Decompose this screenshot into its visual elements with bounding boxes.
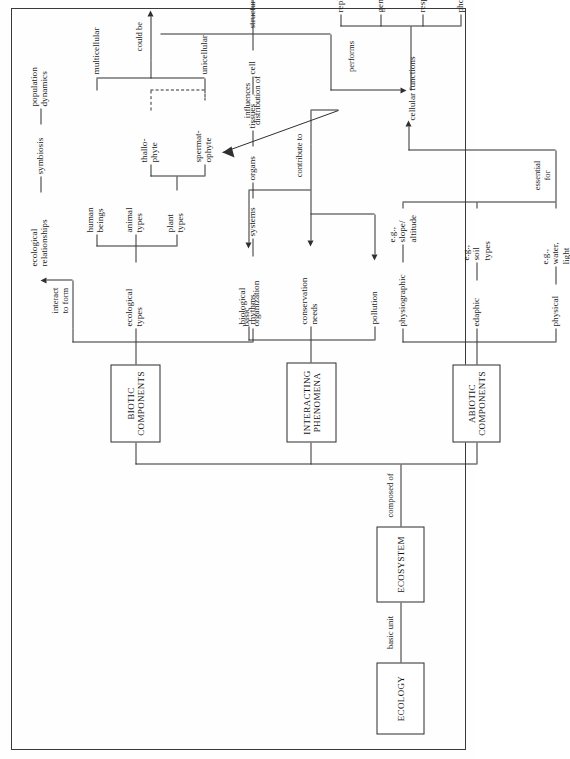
essential-for-line [555, 151, 556, 203]
abiotic-stub-physiographic [402, 329, 403, 343]
chain-cell: cell [246, 47, 256, 75]
arrow-into-conservation-needs [307, 241, 313, 247]
box-ecosystem[interactable]: ECOSYSTEM [376, 527, 424, 603]
cellularity-out [150, 61, 151, 79]
functions-stub-genetic [380, 15, 381, 27]
plant-subtype-bracket [150, 176, 204, 177]
interacting-stub-biological [248, 327, 249, 341]
ecotypes-stub-animal [135, 235, 136, 247]
could-be-line [150, 17, 151, 61]
ecotypes-animal-types: animal types [123, 181, 144, 233]
abiotic-link-physiographic-eg [402, 245, 403, 263]
ecotypes-plant-types: plant types [164, 185, 185, 233]
subtypes-dashed-link-a [150, 91, 151, 111]
cellularity-stub-multi [96, 79, 97, 91]
link-ecosystem-trunk [400, 465, 401, 527]
trunk-to-abiotic [476, 443, 477, 465]
abiotic-collector-a [402, 203, 403, 209]
trunk-down-to-abiotic [400, 464, 476, 465]
essential-for-to-functions [408, 127, 409, 151]
interacting-stub-pollution [374, 327, 375, 341]
abiotic-examples-collector [402, 202, 555, 203]
plant-to-subtypes [176, 177, 177, 191]
relationship-symbiosis: symbiosis [34, 119, 44, 175]
label-interact-to-form: interact to form [50, 277, 69, 325]
arrow-essential-for [405, 121, 411, 127]
plant-subtype-thallophyte: thallo- phyte [138, 107, 159, 163]
link-ecology-ecosystem [400, 603, 401, 663]
abiotic-example-edaphic: e.g., soil types [460, 207, 491, 261]
interact-line [72, 281, 73, 329]
trunk-to-interacting [310, 443, 311, 465]
abiotic-link-edaphic-eg [476, 263, 477, 281]
abiotic-bracket [402, 342, 555, 343]
link-abiotic-out [476, 343, 477, 365]
chain-tissues: tissues [246, 89, 256, 129]
biotic-stub-basic-organization [252, 329, 253, 343]
relationship-population-dynamics: population dynamics [28, 29, 49, 107]
abiotic-example-physical: e.g., water, light [539, 209, 570, 265]
chain-organs: organs [246, 141, 256, 181]
ecotypes-human-beings: human beings [84, 177, 105, 233]
box-ecology[interactable]: ECOLOGY [376, 663, 424, 735]
label-performs: performs [346, 29, 356, 85]
interacting-stub-conservation [310, 327, 311, 341]
cell-function-genetic: genetic [374, 0, 384, 13]
essential-for-riser [408, 150, 555, 151]
trunk-to-biotic [135, 443, 136, 465]
influences-diagonal [130, 41, 345, 161]
functions-stub-replication [340, 15, 341, 27]
cellularity-stub-uni [204, 79, 205, 91]
arrow-into-biological-rhythms [245, 243, 251, 249]
structure-stub [252, 0, 253, 35]
interacting-branch-conservation-needs: conservation needs [298, 251, 319, 325]
biotic-branch-basic-organization: basic organization [240, 253, 261, 327]
biotic-stub-relationships [72, 329, 73, 343]
cell-function-replication: replication [334, 0, 344, 13]
performs-drop [330, 90, 400, 91]
label-could-be: could be [134, 11, 144, 63]
plant-stub-spermatophyte [204, 165, 205, 177]
arrow-could-be [147, 11, 153, 17]
functions-stub-photosynthesis [460, 15, 461, 27]
cell-split-vertical [160, 34, 330, 35]
chain-organs-tissues [252, 131, 253, 147]
plant-stub-thallophyte [150, 165, 151, 177]
box-abiotic-components[interactable]: ABIOTIC COMPONENTS [452, 365, 500, 443]
cellularity-unicellular: unicellular [198, 11, 208, 75]
symbiosis-to-population [40, 109, 41, 125]
arrow-interact-to-form [40, 278, 46, 284]
performs-line [330, 35, 331, 91]
abiotic-collector-c [555, 203, 556, 209]
concept-map-canvas: ECOLOGY basic unit ECOSYSTEM composed of… [10, 9, 465, 751]
functions-stub-respiration [422, 15, 423, 27]
trunk-vertical [135, 464, 400, 465]
abiotic-stub-edaphic [476, 329, 477, 343]
abiotic-collector-b [476, 203, 477, 209]
ecotypes-stub-human [96, 235, 97, 247]
link-biotic-out [135, 343, 136, 365]
cellular-functions-bracket [340, 26, 460, 27]
relationships-to-symbiosis [40, 177, 41, 193]
box-biotic-components[interactable]: BIOTIC COMPONENTS [110, 365, 160, 443]
cell-function-respiration: respiration [416, 0, 426, 13]
abiotic-stub-physical [555, 329, 556, 343]
ecotypes-to-groups [135, 247, 136, 263]
box-interacting-phenomena[interactable]: INTERACTING PHENOMENA [286, 363, 336, 443]
cell-function-photosynthesis: photosynthesis [454, 0, 464, 13]
abiotic-branch-physiographic: physiographic [396, 253, 406, 327]
abiotic-branch-edaphic: edaphic [470, 269, 480, 327]
chain-systems-organs [252, 183, 253, 199]
abiotic-example-physiographic: e.g., slope/ altitude [386, 173, 417, 243]
ecological-relationships-label: ecological relationships [28, 189, 49, 267]
biotic-branch-ecological-types: ecological types [123, 259, 144, 327]
arrow-into-pollution [371, 255, 377, 261]
chain-basicorg-systems [252, 239, 253, 257]
label-structure: structure [246, 0, 256, 29]
link-interacting-out [310, 341, 311, 363]
arrow-performs [400, 88, 406, 94]
chain-tissues-cell [252, 77, 253, 95]
ecotypes-stub-plant [176, 235, 177, 247]
subtypes-dashed-link-b [204, 91, 205, 101]
